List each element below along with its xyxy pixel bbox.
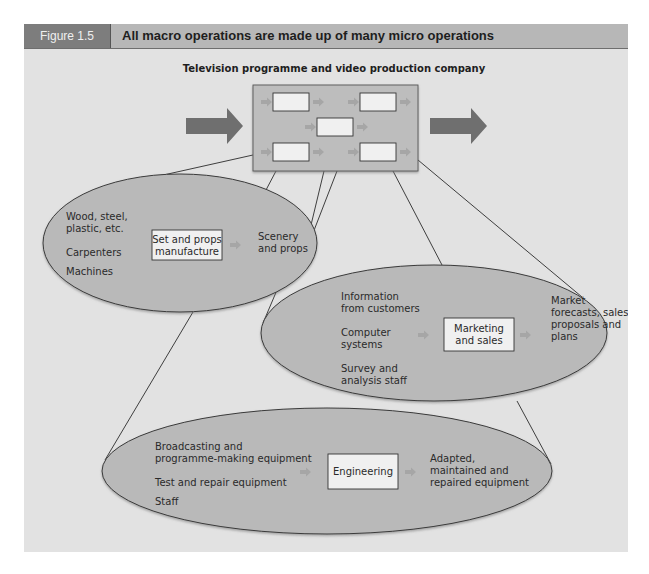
input-label-line: systems bbox=[341, 339, 382, 350]
process-label-line: Engineering bbox=[333, 466, 393, 477]
input-label-line: programme-making equipment bbox=[155, 453, 312, 464]
process-label-line: Marketing bbox=[454, 323, 504, 334]
output-label-line: repaired equipment bbox=[430, 477, 529, 488]
input-label-line: Survey and bbox=[341, 363, 398, 374]
figure-panel: Figure 1.5 All macro operations are made… bbox=[24, 24, 628, 552]
input-label: Wood, steel,plastic, etc. bbox=[66, 211, 128, 234]
output-arrow-icon bbox=[430, 108, 487, 144]
input-label-line: Carpenters bbox=[66, 247, 121, 258]
process-label-line: and sales bbox=[455, 335, 502, 346]
input-label-line: Machines bbox=[66, 266, 113, 277]
input-arrow-icon bbox=[186, 108, 243, 144]
output-label-line: proposals and bbox=[551, 319, 621, 330]
output-label-line: Scenery bbox=[258, 231, 299, 242]
input-label-line: Test and repair equipment bbox=[154, 477, 287, 488]
input-label-line: from customers bbox=[341, 303, 420, 314]
output-label-line: plans bbox=[551, 331, 578, 342]
micro-operation-box bbox=[273, 93, 309, 111]
output-label-line: maintained and bbox=[430, 465, 509, 476]
input-label: Carpenters bbox=[66, 247, 121, 258]
input-label-line: Computer bbox=[341, 327, 392, 338]
process-label: Marketingand sales bbox=[454, 323, 504, 346]
input-label-line: Staff bbox=[155, 496, 179, 507]
connector-line bbox=[311, 171, 324, 225]
output-label-line: Adapted, bbox=[430, 453, 475, 464]
input-label: Test and repair equipment bbox=[154, 477, 287, 488]
input-label-line: Information bbox=[341, 291, 399, 302]
input-label-line: Broadcasting and bbox=[155, 441, 243, 452]
micro-operation-marketing-and-sales: Informationfrom customersComputersystems… bbox=[261, 265, 628, 401]
input-label-line: Wood, steel, bbox=[66, 211, 128, 222]
micro-operation-box bbox=[273, 143, 309, 161]
output-label-line: Market bbox=[551, 295, 585, 306]
input-label-line: analysis staff bbox=[341, 375, 408, 386]
micro-operation-box bbox=[317, 118, 353, 136]
connector-line bbox=[393, 171, 442, 265]
process-label: Set and propsmanufacture bbox=[152, 234, 222, 257]
output-label-line: forecasts, sales bbox=[551, 307, 628, 318]
input-label-line: plastic, etc. bbox=[66, 223, 124, 234]
diagram-subtitle: Television programme and video productio… bbox=[183, 63, 486, 74]
micro-operation-set-and-props: Wood, steel,plastic, etc.CarpentersMachi… bbox=[43, 174, 317, 312]
output-label-line: and props bbox=[258, 243, 308, 254]
macro-operation bbox=[253, 85, 418, 171]
process-label-line: manufacture bbox=[155, 246, 219, 257]
connector-line bbox=[266, 171, 276, 190]
diagram-canvas: Television programme and video productio… bbox=[24, 24, 628, 552]
micro-operation-box bbox=[360, 143, 396, 161]
micro-operation-box bbox=[360, 93, 396, 111]
input-label: Machines bbox=[66, 266, 113, 277]
micro-operation-engineering: Broadcasting andprogramme-making equipme… bbox=[102, 408, 552, 534]
input-label: Staff bbox=[155, 496, 179, 507]
process-label-line: Set and props bbox=[152, 234, 222, 245]
process-label: Engineering bbox=[333, 466, 393, 477]
